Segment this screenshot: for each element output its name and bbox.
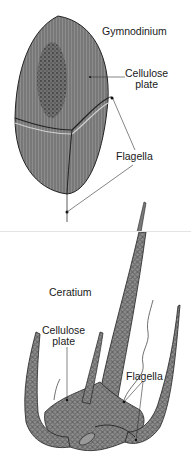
cellulose-label-line2: plate [42,336,85,347]
ceratium-flagella-label: Flagella [126,371,163,382]
cellulose-label-line2: plate [125,79,168,90]
gymnodinium-flagella-label: Flagella [116,151,153,162]
ceratium-illustration [0,232,191,469]
ceratium-title: Ceratium [49,287,92,298]
flagella-leader-line [113,99,135,150]
ceratium-cellulose-label: Cellulose plate [42,325,85,347]
gymnodinium-cellulose-label: Cellulose plate [125,68,168,90]
gymnodinium-diagram: Gymnodinium Cellulose plate Flagella [0,0,191,232]
ceratium-diagram: Ceratium Cellulose plate Flagella [0,232,191,469]
gymnodinium-title: Gymnodinium [102,26,167,37]
